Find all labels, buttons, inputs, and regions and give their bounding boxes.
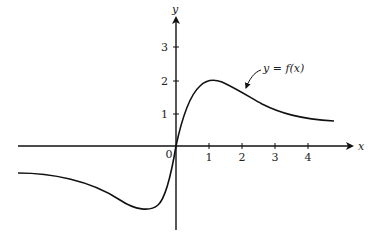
x-axis-label: x	[358, 140, 365, 153]
x-tick-label-3: 3	[272, 151, 279, 164]
function-graph: 1 2 3 4 1 2 3 0 x y y = f(x)	[0, 0, 373, 233]
y-tick-label-1: 1	[161, 108, 168, 121]
x-tick-label-4: 4	[305, 151, 312, 164]
x-tick-label-1: 1	[206, 151, 213, 164]
x-tick-label-2: 2	[239, 151, 246, 164]
curve-annotation: y = f(x)	[262, 62, 304, 75]
origin-label: 0	[166, 148, 173, 161]
y-axis-label: y	[171, 3, 179, 16]
y-tick-label-3: 3	[161, 41, 168, 54]
annotation-arrow	[246, 70, 261, 88]
y-tick-label-2: 2	[161, 75, 168, 88]
